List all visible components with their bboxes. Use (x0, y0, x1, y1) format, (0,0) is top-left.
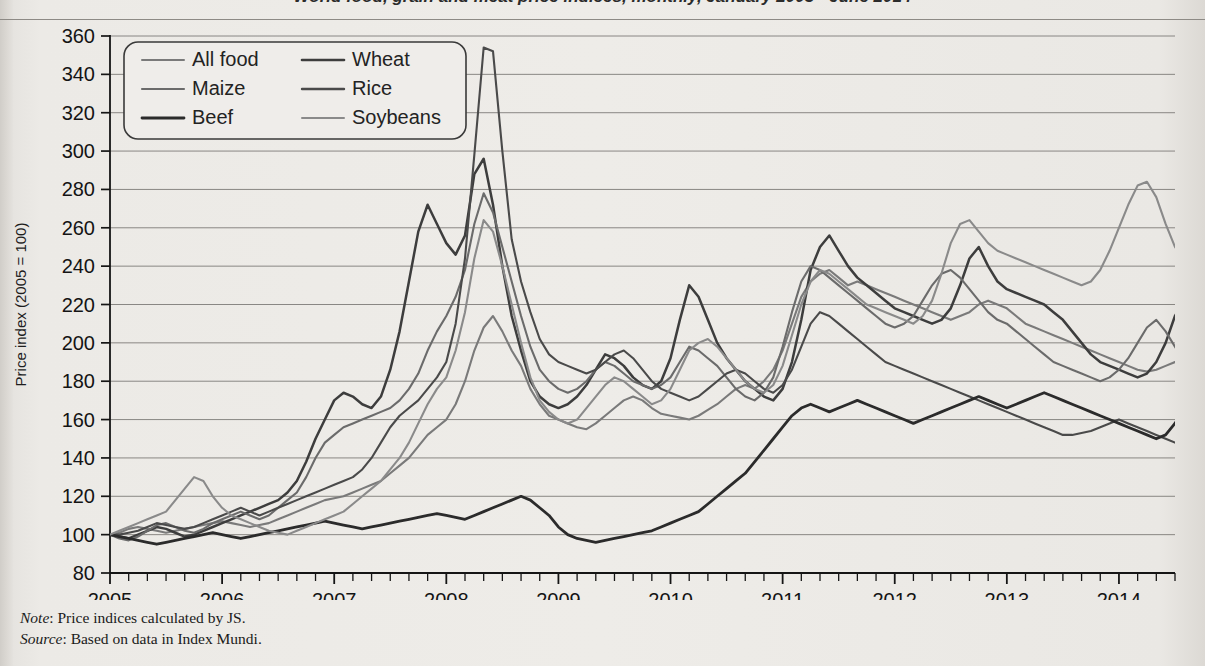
x-tick-label: 2005 (88, 589, 133, 600)
series-line-soybeans (110, 182, 1203, 535)
legend-label: Maize (192, 77, 245, 99)
legend-label: All food (192, 48, 259, 70)
y-tick-label: 140 (62, 447, 95, 469)
line-chart: 8010012014016018020022024026028030032034… (0, 0, 1205, 600)
note-line: Note: Price indices calculated by JS. (20, 607, 720, 628)
legend-label: Beef (192, 106, 234, 128)
y-tick-label: 220 (62, 294, 95, 316)
x-tick-label: 2014 (1097, 589, 1142, 600)
source-label: Source (20, 630, 62, 647)
x-tick-label: 2012 (872, 589, 917, 600)
source-line: Source: Based on data in Index Mundi. (20, 628, 720, 649)
series-line-maize (110, 193, 1203, 540)
legend-label: Soybeans (352, 106, 441, 128)
y-tick-label: 340 (62, 63, 95, 85)
x-tick-label: 2010 (648, 589, 693, 600)
y-tick-label: 160 (62, 409, 95, 431)
y-axis-title: Price index (2005 = 100) (12, 223, 29, 387)
note-label: Note (20, 609, 49, 626)
y-tick-label: 280 (62, 178, 95, 200)
y-tick-label: 200 (62, 332, 95, 354)
y-axis-title-group: Price index (2005 = 100) (12, 223, 29, 387)
series-line-wheat (110, 159, 1203, 539)
note-text: : Price indices calculated by JS. (49, 609, 245, 626)
legend-label: Wheat (352, 48, 410, 70)
x-tick-label: 2007 (312, 589, 357, 600)
legend-label: Rice (352, 77, 392, 99)
source-text: : Based on data in Index Mundi. (62, 630, 261, 647)
y-tick-label: 240 (62, 255, 95, 277)
y-tick-label: 100 (62, 524, 95, 546)
x-tick-label: 2011 (761, 589, 804, 600)
note-source-block: Note: Price indices calculated by JS. So… (20, 607, 720, 649)
chart-legend[interactable]: All foodWheatMaizeRiceBeefSoybeans (124, 42, 466, 139)
x-tick-label: 2013 (985, 589, 1030, 600)
y-tick-label: 300 (62, 140, 95, 162)
y-tick-label: 120 (62, 485, 95, 507)
y-tick-label: 180 (62, 370, 95, 392)
y-tick-label: 80 (73, 562, 95, 584)
y-tick-label: 360 (62, 25, 95, 47)
x-tick-label: 2009 (536, 589, 581, 600)
x-tick-label: 2006 (200, 589, 245, 600)
chart-container: 8010012014016018020022024026028030032034… (0, 0, 1205, 666)
y-tick-label: 260 (62, 217, 95, 239)
x-tick-label: 2008 (424, 589, 469, 600)
y-tick-label: 320 (62, 102, 95, 124)
